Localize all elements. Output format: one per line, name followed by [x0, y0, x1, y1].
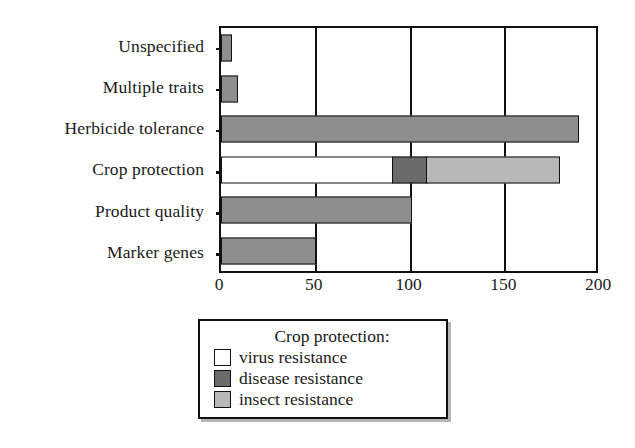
plot-area: [219, 26, 598, 273]
bar-herbicide-tolerance: [221, 116, 579, 143]
bar-segment: [221, 237, 316, 264]
y-axis-category-labels: Unspecified Multiple traits Herbicide to…: [0, 26, 213, 273]
y-axis-label-0: Unspecified: [0, 26, 213, 67]
x-axis-tick-label-100: 100: [395, 276, 421, 294]
x-axis-tick-label-0: 0: [215, 276, 224, 294]
legend-label-virus-resistance: virus resistance: [239, 347, 347, 368]
bar-row: [221, 190, 596, 231]
legend-title: Crop protection:: [214, 326, 436, 347]
x-axis-tick-label-150: 150: [490, 276, 516, 294]
bar-crop-protection: [221, 156, 560, 183]
legend: Crop protection: virus resistance diseas…: [198, 319, 448, 419]
y-axis-label-2: Herbicide tolerance: [0, 108, 213, 149]
bar-series: [221, 28, 596, 271]
x-axis-tick-label-200: 200: [585, 276, 611, 294]
x-axis-tick-labels: 050100150200: [219, 276, 598, 302]
bar-row: [221, 28, 596, 69]
bar-segment-virus-resistance: [221, 156, 393, 183]
y-axis-label-1: Multiple traits: [0, 67, 213, 108]
bar-row: [221, 109, 596, 150]
legend-swatch-disease-resistance: [214, 370, 231, 387]
y-axis-label-3: Crop protection: [0, 150, 213, 191]
bar-multiple-traits: [221, 75, 238, 102]
legend-label-disease-resistance: disease resistance: [239, 368, 363, 389]
bar-product-quality: [221, 197, 412, 224]
legend-label-insect-resistance: insect resistance: [239, 389, 353, 410]
bar-segment: [221, 75, 238, 102]
bar-segment-disease-resistance: [392, 156, 428, 183]
y-axis-label-5: Marker genes: [0, 232, 213, 273]
bar-segment: [221, 197, 412, 224]
legend-item-virus-resistance: virus resistance: [214, 347, 436, 368]
bar-row: [221, 69, 596, 110]
legend-swatch-insect-resistance: [214, 391, 231, 408]
x-axis-tick-label-50: 50: [305, 276, 323, 294]
legend-item-insect-resistance: insect resistance: [214, 389, 436, 410]
legend-swatch-virus-resistance: [214, 349, 231, 366]
bar-unspecified: [221, 35, 232, 62]
bar-chart: Unspecified Multiple traits Herbicide to…: [0, 0, 635, 448]
bar-segment-insect-resistance: [426, 156, 560, 183]
y-axis-label-4: Product quality: [0, 191, 213, 232]
bar-segment: [221, 116, 579, 143]
bar-marker-genes: [221, 237, 316, 264]
bar-segment: [221, 35, 232, 62]
legend-item-disease-resistance: disease resistance: [214, 368, 436, 389]
bar-row: [221, 150, 596, 191]
bar-row: [221, 231, 596, 272]
